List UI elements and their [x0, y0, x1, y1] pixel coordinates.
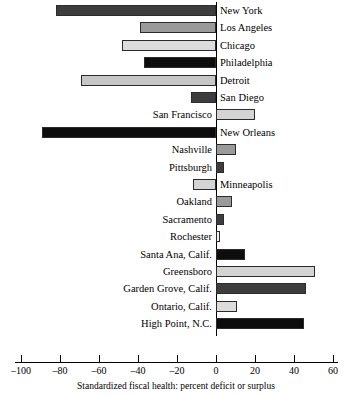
x-tick: [60, 355, 61, 363]
bar-label: Los Angeles: [220, 21, 272, 34]
bar-label: Greensboro: [163, 265, 212, 278]
bar-row: Los Angeles: [0, 20, 352, 37]
bar: [216, 249, 245, 260]
bar-row: Oakland: [0, 194, 352, 211]
x-tick: [294, 355, 295, 363]
bar: [216, 144, 236, 155]
bar: [216, 231, 220, 242]
bar: [216, 266, 315, 277]
bar: [216, 162, 224, 173]
bar-row: Ontario, Calif.: [0, 299, 352, 316]
bar: [42, 127, 216, 138]
bar-label: Pittsburgh: [169, 161, 212, 174]
bar-label: Santa Ana, Calif.: [140, 248, 212, 261]
bar-row: San Francisco: [0, 107, 352, 124]
x-tick: [216, 355, 217, 363]
bar-row: Greensboro: [0, 264, 352, 281]
x-tick-label: 40: [274, 365, 314, 377]
x-tick-label: 60: [313, 365, 352, 377]
bar: [216, 109, 255, 120]
bar: [216, 301, 237, 312]
bar-label: Ontario, Calif.: [151, 300, 212, 313]
bar-row: New York: [0, 3, 352, 20]
x-tick-label: 20: [235, 365, 275, 377]
x-axis: –100–80–60–40–200204060 Standardized fis…: [0, 352, 352, 395]
bar: [56, 5, 216, 16]
bar-label: San Diego: [220, 91, 264, 104]
bar-row: Pittsburgh: [0, 160, 352, 177]
bar-row: San Diego: [0, 90, 352, 107]
bar-row: Chicago: [0, 38, 352, 55]
bar-label: New York: [220, 4, 263, 17]
bar-label: New Orleans: [220, 126, 275, 139]
x-tick-label: –80: [40, 365, 80, 377]
x-tick-label: –60: [79, 365, 119, 377]
x-tick: [177, 355, 178, 363]
bar-row: Rochester: [0, 229, 352, 246]
bar-label: Chicago: [220, 39, 255, 52]
x-tick: [99, 355, 100, 363]
bar: [216, 214, 224, 225]
bar-row: Nashville: [0, 142, 352, 159]
bar: [216, 196, 232, 207]
x-tick: [255, 355, 256, 363]
bar-label: High Point, N.C.: [141, 317, 212, 330]
bar: [216, 318, 304, 329]
bar: [191, 92, 216, 103]
x-tick-label: 0: [196, 365, 236, 377]
bar-row: New Orleans: [0, 125, 352, 142]
bar-row: Detroit: [0, 73, 352, 90]
bar: [216, 283, 306, 294]
bar-label: Detroit: [220, 74, 250, 87]
x-tick-label: –100: [1, 365, 41, 377]
bar: [122, 40, 216, 51]
bar-row: Minneapolis: [0, 177, 352, 194]
bar-label: Philadelphia: [220, 56, 273, 69]
x-tick-label: –20: [157, 365, 197, 377]
bar-row: High Point, N.C.: [0, 316, 352, 333]
bar-row: Philadelphia: [0, 55, 352, 72]
bar-label: Nashville: [172, 143, 212, 156]
x-tick-label: –40: [118, 365, 158, 377]
bar-row: Garden Grove, Calif.: [0, 281, 352, 298]
bar-row: Santa Ana, Calif.: [0, 247, 352, 264]
bar: [140, 22, 216, 33]
x-tick: [21, 355, 22, 363]
bar-label: Garden Grove, Calif.: [123, 282, 212, 295]
bar: [144, 57, 216, 68]
bar-label: Rochester: [170, 230, 212, 243]
x-tick: [333, 355, 334, 363]
bar-label: San Francisco: [153, 108, 212, 121]
x-axis-title: Standardized fiscal health: percent defi…: [0, 380, 352, 392]
x-tick: [138, 355, 139, 363]
plot-area: New YorkLos AngelesChicagoPhiladelphiaDe…: [0, 0, 352, 352]
bar: [81, 75, 216, 86]
bar-row: Sacramento: [0, 212, 352, 229]
bar: [193, 179, 216, 190]
bar-chart: New YorkLos AngelesChicagoPhiladelphiaDe…: [0, 0, 352, 395]
bar-label: Sacramento: [162, 213, 212, 226]
bar-label: Oakland: [176, 195, 212, 208]
bar-label: Minneapolis: [220, 178, 273, 191]
